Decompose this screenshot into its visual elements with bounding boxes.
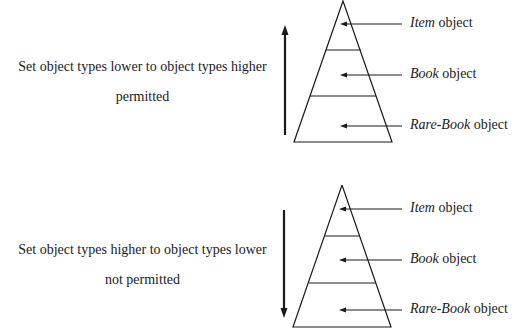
label-rare-book: Rare-Book object: [410, 117, 508, 133]
pyramid-shape: [293, 185, 391, 327]
caption-line-1: Set object types higher to object types …: [10, 235, 275, 265]
caption-line-2: permitted: [10, 82, 275, 112]
caption: Set object types higher to object types …: [10, 235, 275, 295]
label-book: Book object: [410, 66, 476, 82]
down-arrow-icon: [281, 210, 288, 318]
caption-line-1: Set object types lower to object types h…: [10, 52, 275, 82]
arrowhead-icon: [339, 258, 346, 263]
pyramid-shape: [294, 1, 392, 142]
arrowhead-icon: [339, 308, 346, 313]
label-item: Item object: [410, 15, 473, 31]
label-item: Item object: [410, 200, 473, 216]
label-rare-book: Rare-Book object: [410, 301, 508, 317]
arrowhead-icon: [339, 207, 346, 212]
arrowhead-icon: [340, 73, 347, 78]
diagram-not-permitted: Set object types higher to object types …: [0, 185, 531, 335]
label-book: Book object: [410, 251, 476, 267]
arrowhead-icon: [340, 22, 347, 27]
caption: Set object types lower to object types h…: [10, 52, 275, 112]
arrowhead-icon: [340, 124, 347, 129]
up-arrow-icon: [282, 25, 289, 135]
caption-line-2: not permitted: [10, 265, 275, 295]
diagram-permitted: Set object types lower to object types h…: [0, 0, 531, 160]
